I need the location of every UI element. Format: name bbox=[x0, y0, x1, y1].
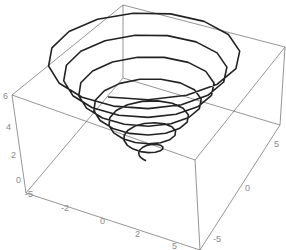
x-tick: -2 bbox=[61, 203, 69, 213]
z-tick: 0 bbox=[16, 175, 21, 185]
y-tick: -5 bbox=[213, 234, 221, 244]
z-tick: 2 bbox=[11, 150, 16, 160]
x-axis-ticks: -5 -2 0 2 5 bbox=[25, 189, 177, 250]
x-tick: 5 bbox=[172, 241, 177, 250]
x-tick: 0 bbox=[100, 216, 105, 226]
spiral-curve bbox=[49, 13, 240, 161]
z-tick: 6 bbox=[3, 91, 8, 101]
y-tick: 5 bbox=[274, 139, 279, 149]
x-tick: -5 bbox=[25, 189, 33, 199]
plot-3d: 6 4 2 0 -5 -2 0 2 5 5 0 -5 bbox=[0, 0, 286, 250]
x-tick: 2 bbox=[135, 229, 140, 239]
z-tick: 4 bbox=[6, 122, 11, 132]
bounding-box bbox=[12, 5, 285, 250]
y-tick: 0 bbox=[245, 183, 250, 193]
y-axis-ticks: 5 0 -5 bbox=[213, 139, 279, 244]
